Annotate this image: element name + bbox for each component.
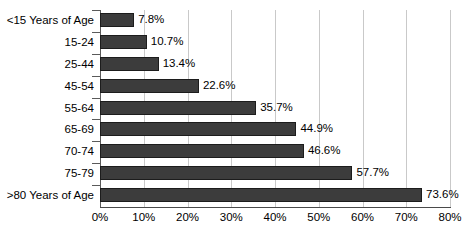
y-axis-tick: [92, 98, 100, 99]
bar-row: 22.6%: [100, 76, 450, 98]
bar: [100, 144, 304, 158]
y-axis-tick: [92, 76, 100, 77]
x-axis-tick-label: 30%: [211, 210, 251, 224]
y-axis-tick: [92, 10, 100, 11]
category-label: >80 Years of Age: [0, 187, 94, 203]
bar-value-label: 13.4%: [163, 55, 196, 71]
category-label: 15-24: [0, 34, 94, 50]
y-axis-tick: [92, 163, 100, 164]
bar-row: 73.6%: [100, 185, 450, 207]
y-axis-tick: [92, 119, 100, 120]
x-axis-tick-label: 40%: [255, 210, 295, 224]
bar-value-label: 10.7%: [151, 33, 184, 49]
bar-row: 13.4%: [100, 54, 450, 76]
category-label: 45-54: [0, 78, 94, 94]
bar: [100, 35, 147, 49]
category-label: 25-44: [0, 56, 94, 72]
category-label: 75-79: [0, 165, 94, 181]
plot-area: 7.8%10.7%13.4%22.6%35.7%44.9%46.6%57.7%7…: [100, 10, 450, 207]
bar: [100, 101, 256, 115]
bar-row: 44.9%: [100, 119, 450, 141]
x-axis-tick-label: 20%: [168, 210, 208, 224]
bar-chart: 7.8%10.7%13.4%22.6%35.7%44.9%46.6%57.7%7…: [0, 0, 468, 235]
y-axis-tick: [92, 54, 100, 55]
bar: [100, 57, 159, 71]
bar: [100, 79, 199, 93]
bar: [100, 188, 422, 202]
bar: [100, 122, 296, 136]
bar-value-label: 44.9%: [300, 120, 333, 136]
y-axis-tick: [92, 185, 100, 186]
bar-row: 10.7%: [100, 32, 450, 54]
gridline-80pct: [450, 10, 451, 207]
y-axis-tick: [92, 141, 100, 142]
y-axis-tick: [92, 32, 100, 33]
bar: [100, 13, 134, 27]
bar-value-label: 22.6%: [203, 77, 236, 93]
bar-value-label: 7.8%: [138, 11, 164, 27]
x-axis-tick-label: 0%: [80, 210, 120, 224]
category-label: <15 Years of Age: [0, 12, 94, 28]
bar-row: 57.7%: [100, 163, 450, 185]
bar: [100, 166, 352, 180]
bar-value-label: 73.6%: [426, 186, 459, 202]
x-axis-tick-label: 60%: [343, 210, 383, 224]
bar-value-label: 35.7%: [260, 99, 293, 115]
bar-row: 7.8%: [100, 10, 450, 32]
x-axis-tick-label: 80%: [430, 210, 468, 224]
bar-row: 46.6%: [100, 141, 450, 163]
x-axis-tick-label: 10%: [124, 210, 164, 224]
x-axis-tick-label: 70%: [386, 210, 426, 224]
bar-row: 35.7%: [100, 98, 450, 120]
category-label: 65-69: [0, 121, 94, 137]
x-axis-line: [100, 207, 451, 208]
bar-value-label: 46.6%: [308, 142, 341, 158]
category-label: 70-74: [0, 143, 94, 159]
bar-value-label: 57.7%: [356, 164, 389, 180]
x-axis-tick-label: 50%: [299, 210, 339, 224]
category-label: 55-64: [0, 100, 94, 116]
